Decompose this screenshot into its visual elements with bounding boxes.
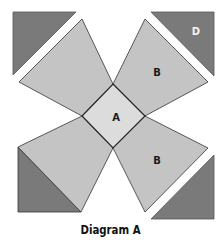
label-kite-top-right: B (153, 67, 161, 78)
label-kite-bottom-right: B (153, 155, 161, 166)
diagram-canvas: A B B D (0, 0, 221, 240)
label-triangle-top-right: D (192, 26, 200, 37)
label-center-square: A (112, 112, 120, 123)
diagram-caption: Diagram A (17, 223, 205, 237)
